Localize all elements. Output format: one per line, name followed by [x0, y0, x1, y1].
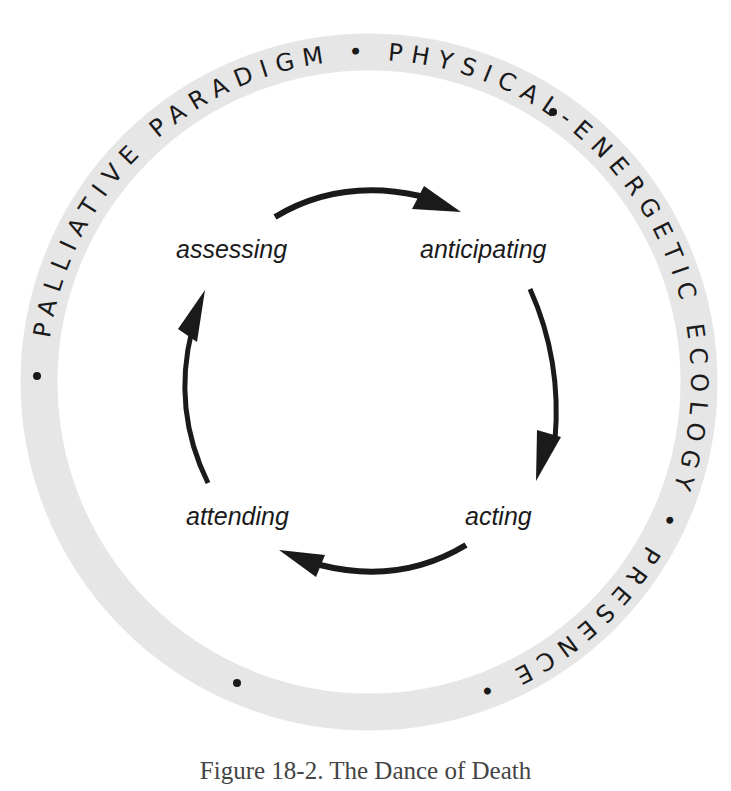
figure-caption: Figure 18-2. The Dance of Death	[0, 757, 731, 785]
arrowhead-icon	[536, 430, 561, 481]
arrow-anticipating-to-acting	[530, 289, 561, 481]
node-acting: acting	[465, 502, 532, 530]
arrow-assessing-to-anticipating	[275, 186, 461, 217]
separator-dot-top-right	[549, 108, 557, 116]
separator-dot-bottom-left	[233, 679, 241, 687]
dance-of-death-diagram: PALLIATIVE PARADIGM • PHYSICAL-ENERGETIC…	[0, 0, 731, 791]
node-anticipating: anticipating	[420, 235, 547, 263]
arrow-acting-to-attending	[279, 545, 466, 577]
node-assessing: assessing	[176, 235, 287, 263]
separator-dot-left	[33, 372, 41, 380]
arrowhead-icon	[178, 290, 205, 342]
arrowhead-icon	[412, 186, 461, 212]
node-attending: attending	[186, 502, 289, 530]
arrowhead-icon	[279, 550, 325, 577]
arrow-attending-to-assessing	[178, 290, 208, 483]
